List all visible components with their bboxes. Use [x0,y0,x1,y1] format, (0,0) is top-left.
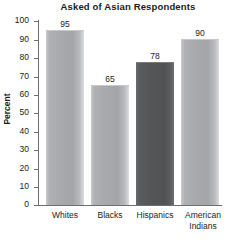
y-tick-40: 40 [34,132,38,133]
bar-value-hispanics: 78 [150,51,159,61]
x-axis-line [38,205,222,206]
bar-blacks[interactable]: 65 [91,85,129,205]
y-tick-label-40: 40 [3,126,29,137]
y-tick-label-60: 60 [3,89,29,100]
y-tick-80: 80 [34,58,38,59]
y-tick-10: 10 [34,187,38,188]
y-tick-60: 60 [34,95,38,96]
bar-whites[interactable]: 95 [46,30,84,205]
bar-american-indians[interactable]: 90 [181,39,219,205]
bar-value-whites: 95 [60,19,69,29]
y-tick-70: 70 [34,77,38,78]
y-tick-label-0: 0 [3,199,29,210]
bar-value-american-indians: 90 [195,28,204,38]
y-tick-label-100: 100 [3,15,29,26]
y-tick-50: 50 [34,113,38,114]
y-tick-label-70: 70 [3,71,29,82]
bar-hispanics[interactable]: 78 [136,62,174,206]
category-label-american-indians: American Indians [174,210,230,231]
bar-value-blacks: 65 [105,74,114,84]
plot-area: 100 90 80 70 60 50 40 30 20 10 0 [38,20,222,206]
y-tick-label-90: 90 [3,34,29,45]
y-tick-100: 100 [34,21,38,22]
y-tick-label-20: 20 [3,163,29,174]
y-tick-20: 20 [34,169,38,170]
y-tick-30: 30 [34,150,38,151]
y-tick-label-50: 50 [3,107,29,118]
y-tick-label-30: 30 [3,144,29,155]
bar-chart: Asked of Asian Respondents Percent 100 9… [0,0,230,250]
y-tick-label-10: 10 [3,181,29,192]
y-tick-90: 90 [34,40,38,41]
y-tick-label-80: 80 [3,52,29,63]
y-axis-line [38,20,39,206]
y-tick-0: 0 [34,205,38,206]
chart-title: Asked of Asian Respondents [26,1,230,12]
